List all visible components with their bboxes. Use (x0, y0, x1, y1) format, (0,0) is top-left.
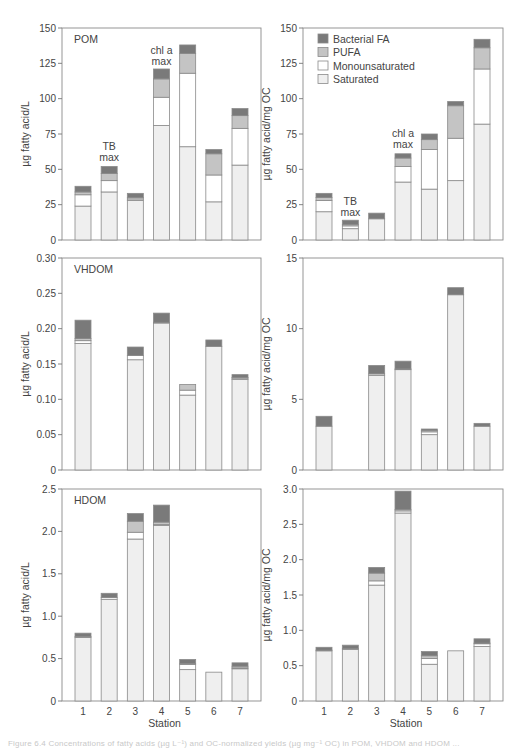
y-tick-label: 0.15 (37, 359, 57, 370)
bar-station-1 (75, 633, 91, 701)
bar-segment-saturated (232, 669, 248, 701)
legend-swatch-sat (318, 75, 328, 84)
bar-station-1 (75, 186, 91, 240)
bar-segment-pufa (127, 521, 143, 532)
bar-segment-bacterial-fa (206, 340, 222, 346)
bar-segment-bacterial-fa (448, 101, 464, 105)
y-axis-label: µg fatty acid/mg OC (260, 317, 272, 410)
bar-segment-saturated (316, 651, 332, 701)
bar-segment-bacterial-fa (154, 69, 170, 79)
bar-station-5 (180, 384, 196, 470)
bar-station-3 (127, 347, 143, 470)
bar-segment-bacterial-fa (101, 593, 117, 597)
x-tick-label: 6 (211, 706, 217, 717)
bar-station-7 (232, 375, 248, 470)
chart-panel-top-left: 0255075100125150µg fatty acid/LPOMTBmaxc… (19, 23, 261, 246)
bar-segment-bacterial-fa (127, 347, 143, 355)
bar-segment-pufa (448, 106, 464, 139)
bar-segment-bacterial-fa (232, 375, 248, 378)
chart-panel-middle-left: 00.050.100.150.200.250.30µg fatty acid/L… (19, 253, 261, 476)
y-tick-label: 25 (45, 199, 57, 210)
bar-station-3 (369, 213, 385, 240)
bar-segment-bacterial-fa (127, 514, 143, 522)
bar-segment-bacterial-fa (154, 505, 170, 522)
y-tick-label: 75 (286, 129, 298, 140)
bar-segment-bacterial-fa (180, 45, 196, 53)
bar-segment-saturated (421, 435, 437, 470)
bar-segment-monounsaturated (127, 532, 143, 539)
y-axis-label: µg fatty acid/mg OC (260, 87, 272, 180)
bar-station-6 (448, 288, 464, 470)
bar-station-1 (316, 647, 332, 701)
y-tick-label: 0.5 (283, 660, 297, 671)
bar-segment-bacterial-fa (101, 167, 117, 174)
y-tick-label: 150 (39, 23, 56, 34)
bar-segment-monounsaturated (180, 665, 196, 670)
bar-station-2 (101, 593, 117, 701)
bar-segment-saturated (232, 380, 248, 470)
annotation-label: max (393, 138, 414, 150)
bar-segment-monounsaturated (75, 195, 91, 206)
y-tick-label: 125 (280, 58, 297, 69)
y-tick-label: 1.5 (42, 568, 56, 579)
x-tick-label: 1 (80, 706, 86, 717)
y-tick-label: 0.30 (37, 253, 57, 264)
chart-panel-middle-right: 051015µg fatty acid/mg OC (260, 253, 503, 476)
y-tick-label: 0 (291, 696, 297, 707)
bar-segment-saturated (127, 200, 143, 240)
bar-segment-bacterial-fa (232, 663, 248, 666)
bar-segment-bacterial-fa (206, 150, 222, 154)
bar-segment-pufa (474, 48, 490, 69)
bar-station-4 (154, 69, 170, 240)
bar-station-4 (154, 505, 170, 701)
bar-segment-monounsaturated (342, 226, 358, 229)
bar-segment-saturated (75, 344, 91, 470)
bar-station-4 (395, 154, 411, 240)
bar-segment-pufa (206, 154, 222, 175)
bar-segment-saturated (75, 206, 91, 240)
bar-segment-bacterial-fa (421, 134, 437, 140)
bar-segment-saturated (154, 126, 170, 240)
y-tick-label: 2.0 (42, 526, 56, 537)
bar-segment-bacterial-fa (421, 429, 437, 430)
bar-segment-saturated (369, 375, 385, 470)
x-tick-label: 4 (159, 706, 165, 717)
y-tick-label: 125 (39, 58, 56, 69)
y-axis-label: µg fatty acid/L (19, 562, 31, 628)
y-tick-label: 75 (45, 129, 57, 140)
y-tick-label: 0 (50, 235, 56, 246)
figure-caption: Figure 6.4 Concentrations of fatty acids… (8, 739, 460, 748)
bar-segment-saturated (369, 585, 385, 701)
bar-segment-bacterial-fa (342, 645, 358, 649)
bar-segment-bacterial-fa (75, 186, 91, 192)
bar-station-2 (342, 220, 358, 240)
y-tick-label: 100 (280, 93, 297, 104)
bar-segment-saturated (369, 219, 385, 240)
chart-panel-bottom-right: 00.51.01.52.02.53.0µg fatty acid/mg OC12… (260, 484, 503, 730)
y-tick-label: 1.0 (42, 611, 56, 622)
annotation-label: max (340, 206, 361, 218)
bar-station-7 (474, 639, 490, 701)
bar-segment-saturated (206, 672, 222, 701)
legend-label-mono: Monounsaturated (333, 60, 415, 72)
x-tick-label: 2 (348, 706, 354, 717)
bar-segment-monounsaturated (180, 73, 196, 146)
bar-station-3 (369, 567, 385, 701)
x-tick-label: 2 (106, 706, 112, 717)
bar-segment-monounsaturated (101, 181, 117, 192)
legend-label-pufa: PUFA (333, 46, 360, 58)
y-tick-label: 0 (291, 465, 297, 476)
legend-label-bacterial: Bacterial FA (333, 33, 390, 45)
bar-segment-monounsaturated (154, 97, 170, 125)
bar-segment-pufa (75, 192, 91, 195)
chart-panel-top-right: 0255075100125150µg fatty acid/mg OCTBmax… (260, 23, 503, 246)
panel-title: POM (74, 33, 98, 45)
bar-segment-saturated (316, 426, 332, 470)
bar-segment-bacterial-fa (395, 491, 411, 509)
bar-segment-pufa (101, 174, 117, 181)
bar-station-7 (474, 423, 490, 470)
bar-segment-monounsaturated (316, 200, 332, 211)
bar-segment-saturated (101, 599, 117, 701)
bar-station-2 (342, 645, 358, 701)
x-tick-label: 1 (321, 706, 327, 717)
